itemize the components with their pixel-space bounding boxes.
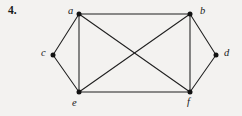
graph-vertex-d xyxy=(214,53,219,58)
vertex-label-e: e xyxy=(72,98,77,109)
graph-vertex-b xyxy=(188,12,193,17)
graph-figure: 4. abcdef xyxy=(0,0,242,116)
graph-edge-ac xyxy=(53,14,79,55)
graph-edge-bd xyxy=(190,14,216,55)
graph-edge-ce xyxy=(53,55,79,92)
vertex-label-f: f xyxy=(187,97,190,108)
graph-edge-df xyxy=(190,55,216,92)
graph-vertex-a xyxy=(77,12,82,17)
graph-vertex-c xyxy=(51,53,56,58)
graph-vertex-f xyxy=(188,90,193,95)
vertex-label-d: d xyxy=(224,48,229,59)
graph-vertex-e xyxy=(77,90,82,95)
vertex-label-b: b xyxy=(200,6,205,17)
edge-layer xyxy=(53,14,216,92)
vertex-label-c: c xyxy=(41,48,46,59)
vertex-label-a: a xyxy=(68,6,73,17)
graph-canvas xyxy=(0,0,242,116)
